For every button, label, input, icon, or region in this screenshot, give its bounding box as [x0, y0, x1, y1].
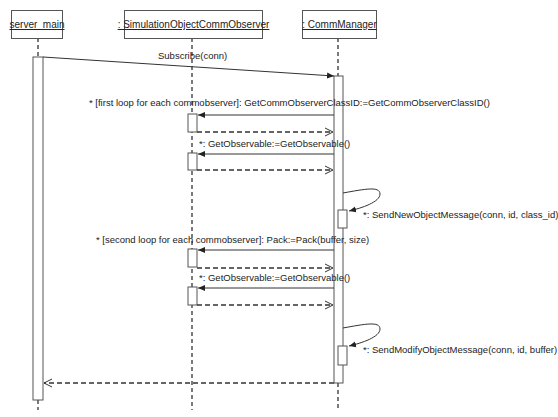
self-call-arrow-send-new-object [343, 189, 380, 211]
message-label-subscribe: Subscribe(conn) [158, 51, 227, 61]
activation-observer-3 [188, 249, 197, 267]
object-label-simulation-observer: : SimulationObjectCommObserver [118, 19, 270, 30]
object-box-server-main: server_main [11, 10, 63, 39]
message-label-pack: * [second loop for each commobserver]: P… [96, 235, 369, 245]
self-call-arrow-send-modify-object [343, 324, 380, 346]
message-label-get-observable-2: *: GetObservable:=GetObservable() [199, 273, 350, 283]
message-label-send-new-object: *: SendNewObjectMessage(conn, id, class_… [363, 210, 558, 220]
message-label-get-class-id: * [first loop for each commobserver]: Ge… [89, 98, 490, 108]
activation-observer-2 [188, 153, 197, 170]
object-box-simulation-observer: : SimulationObjectCommObserver [124, 10, 263, 39]
message-label-send-modify-object: *: SendModifyObjectMessage(conn, id, buf… [363, 345, 557, 355]
activation-server-main [33, 57, 43, 400]
activation-comm-manager [334, 76, 343, 383]
object-box-comm-manager: : CommManager [302, 10, 377, 39]
activation-self-call-1 [338, 210, 347, 228]
activation-self-call-2 [338, 346, 347, 365]
activation-observer-1 [188, 114, 197, 132]
object-label-comm-manager: : CommManager [302, 19, 376, 30]
activation-observer-4 [188, 287, 197, 305]
message-label-get-observable-1: *: GetObservable:=GetObservable() [199, 139, 350, 149]
object-label-server-main: server_main [9, 19, 64, 30]
